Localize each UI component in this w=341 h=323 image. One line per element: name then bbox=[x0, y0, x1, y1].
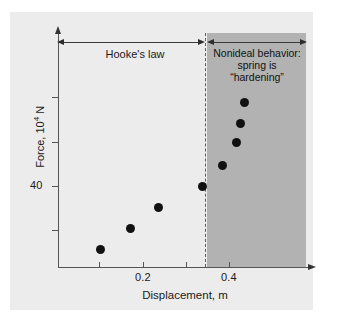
y-axis-tick bbox=[52, 230, 59, 231]
y-axis-title-suffix: N bbox=[34, 106, 46, 117]
nonideal-span-arrow-left-icon bbox=[207, 39, 214, 45]
data-point bbox=[240, 98, 249, 107]
y-axis-title: Force, 104 N bbox=[32, 92, 46, 182]
x-axis-tick bbox=[143, 262, 144, 268]
data-point bbox=[218, 161, 227, 170]
region-divider-dashed-line bbox=[205, 33, 206, 267]
x-axis-tick bbox=[229, 262, 230, 268]
data-point bbox=[126, 224, 135, 233]
nonideal-annotation-line-1: Nonideal behavior: bbox=[208, 47, 306, 59]
x-axis-title: Displacement, m bbox=[100, 289, 270, 301]
data-point bbox=[96, 245, 105, 254]
hooke-span-arrow-line bbox=[60, 42, 202, 43]
nonideal-annotation-line-3: “hardening” bbox=[208, 71, 306, 83]
figure-container: 40 0.2 0.4 Force, 104 N Displacement, m … bbox=[0, 0, 341, 323]
hooke-span-arrow-left-icon bbox=[57, 39, 64, 45]
data-point bbox=[198, 182, 207, 191]
x-axis-arrowhead-icon bbox=[308, 264, 316, 270]
y-axis-tick bbox=[52, 186, 59, 187]
data-point bbox=[154, 203, 163, 212]
x-axis-tick-label-02: 0.2 bbox=[128, 271, 158, 283]
y-axis-tick bbox=[52, 142, 59, 143]
y-axis-arrowhead-icon bbox=[55, 26, 61, 34]
y-axis-line bbox=[58, 33, 59, 268]
hooke-span-arrow-right-icon bbox=[198, 39, 205, 45]
x-axis-tick-label-04: 0.4 bbox=[214, 271, 244, 283]
x-axis-tick bbox=[186, 262, 187, 268]
y-axis-tick bbox=[52, 97, 59, 98]
y-axis-title-exponent: 4 bbox=[32, 117, 41, 121]
nonideal-span-arrow-right-icon bbox=[300, 39, 307, 45]
hooke-law-annotation: Hooke's law bbox=[70, 48, 200, 60]
data-point bbox=[236, 119, 245, 128]
y-axis-title-prefix: Force, 10 bbox=[34, 121, 46, 167]
x-axis-tick bbox=[99, 262, 100, 268]
x-axis-line bbox=[58, 267, 310, 268]
nonideal-annotation-line-2: spring is bbox=[208, 59, 306, 71]
nonideal-span-arrow-line bbox=[210, 42, 304, 43]
data-point bbox=[232, 138, 241, 147]
nonideal-behavior-annotation: Nonideal behavior: spring is “hardening” bbox=[208, 47, 306, 83]
